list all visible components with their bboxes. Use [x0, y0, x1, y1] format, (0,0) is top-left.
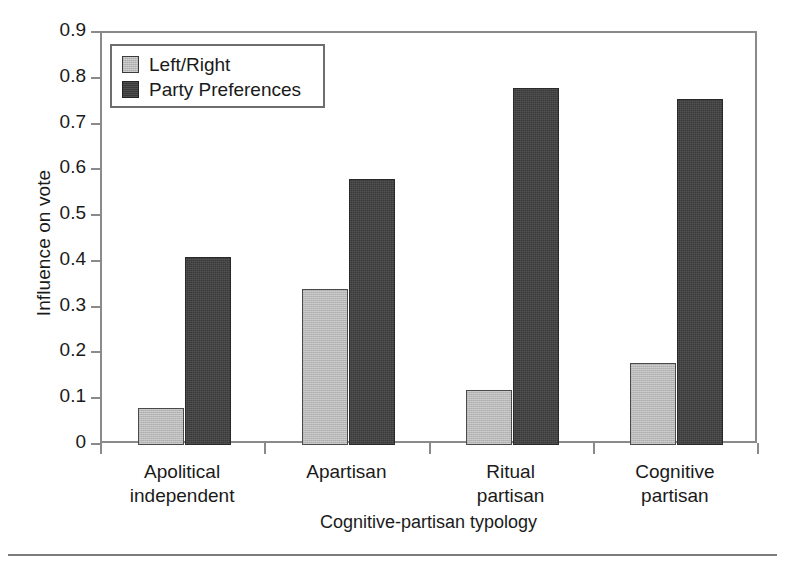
y-tick-mark [91, 306, 100, 308]
y-tick-label: 0.9 [60, 19, 86, 41]
legend-label-left-right: Left/Right [149, 55, 230, 74]
y-tick-label: 0 [75, 431, 86, 453]
x-category-label-line: Cognitive [593, 460, 757, 484]
x-tick-mark [757, 443, 759, 454]
bar [466, 390, 512, 445]
x-category-label-line: partisan [429, 484, 593, 508]
y-tick-mark [91, 31, 100, 33]
legend-item-left-right: Left/Right [122, 52, 323, 77]
x-category-label: Ritualpartisan [429, 460, 593, 508]
bar-chart-figure: Influence on vote 0.90.80.70.60.50.40.30… [0, 0, 785, 570]
x-category-label: Cognitivepartisan [593, 460, 757, 508]
y-tick-label: 0.8 [60, 65, 86, 87]
y-tick-mark [91, 351, 100, 353]
y-tick-label: 0.6 [60, 156, 86, 178]
legend-item-party-preferences: Party Preferences [122, 77, 323, 102]
y-tick-label: 0.4 [60, 248, 86, 270]
y-tick-mark [91, 443, 100, 445]
bar [302, 289, 348, 445]
x-category-label: Apartisan [264, 460, 428, 484]
y-tick-label: 0.7 [60, 111, 86, 133]
bar [677, 99, 723, 445]
x-tick-mark [429, 443, 431, 454]
y-tick-mark [91, 123, 100, 125]
y-tick-label: 0.5 [60, 202, 86, 224]
x-category-label-line: Apolitical [100, 460, 264, 484]
x-category-label-line: partisan [593, 484, 757, 508]
y-tick-mark [91, 397, 100, 399]
y-tick-label: 0.3 [60, 294, 86, 316]
chart-legend: Left/Right Party Preferences [110, 44, 325, 108]
y-tick-mark [91, 260, 100, 262]
bar [513, 88, 559, 445]
legend-label-party-preferences: Party Preferences [149, 80, 301, 99]
page-divider-rule [8, 554, 777, 556]
x-tick-mark [100, 443, 102, 454]
x-category-label: Apoliticalindependent [100, 460, 264, 508]
bar [630, 363, 676, 445]
y-tick-label: 0.2 [60, 339, 86, 361]
y-tick-mark [91, 77, 100, 79]
x-tick-mark [264, 443, 266, 454]
legend-swatch-left-right [122, 56, 139, 73]
bar [349, 179, 395, 445]
y-tick-label: 0.1 [60, 385, 86, 407]
legend-swatch-party-preferences [122, 81, 139, 98]
y-axis-title: Influence on vote [33, 93, 55, 393]
bar [185, 257, 231, 445]
x-axis-title: Cognitive-partisan typology [100, 512, 757, 533]
x-category-label-line: independent [100, 484, 264, 508]
x-category-label-line: Apartisan [264, 460, 428, 484]
y-tick-mark [91, 168, 100, 170]
y-tick-mark [91, 214, 100, 216]
x-category-label-line: Ritual [429, 460, 593, 484]
x-tick-mark [593, 443, 595, 454]
bar [138, 408, 184, 445]
